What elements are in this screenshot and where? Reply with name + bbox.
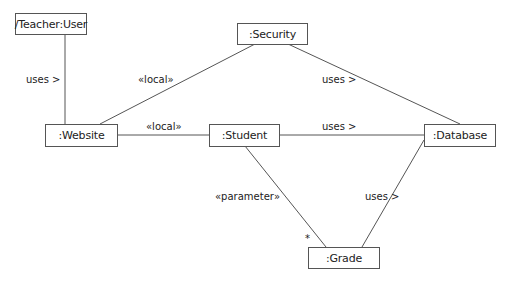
edge-security-database xyxy=(288,44,460,124)
node-label: /Teacher:User xyxy=(15,18,87,31)
node-label: :Grade xyxy=(326,252,362,265)
node-label: :Security xyxy=(249,28,296,41)
edge-label-student-grade: «parameter» xyxy=(215,191,280,202)
edge-label-student-database: uses > xyxy=(322,121,356,132)
multiplicity-star: * xyxy=(305,233,310,244)
node-label: :Student xyxy=(222,129,267,142)
edge-label-teacher-website: uses > xyxy=(26,74,60,85)
object-student[interactable]: :Student xyxy=(209,124,280,147)
edge-label-website-student: «local» xyxy=(146,121,182,132)
node-label: :Website xyxy=(59,129,105,142)
edge-label-database-grade: uses > xyxy=(365,191,399,202)
edge-security-website xyxy=(100,44,255,124)
object-website[interactable]: :Website xyxy=(45,124,118,147)
node-label: :Database xyxy=(433,129,487,142)
object-teacher-user[interactable]: /Teacher:User xyxy=(15,13,87,35)
object-database[interactable]: :Database xyxy=(424,124,496,147)
object-grade[interactable]: :Grade xyxy=(308,247,380,269)
edge-label-security-database: uses > xyxy=(322,74,356,85)
object-security[interactable]: :Security xyxy=(237,23,308,45)
edge-label-security-website: «local» xyxy=(138,74,174,85)
